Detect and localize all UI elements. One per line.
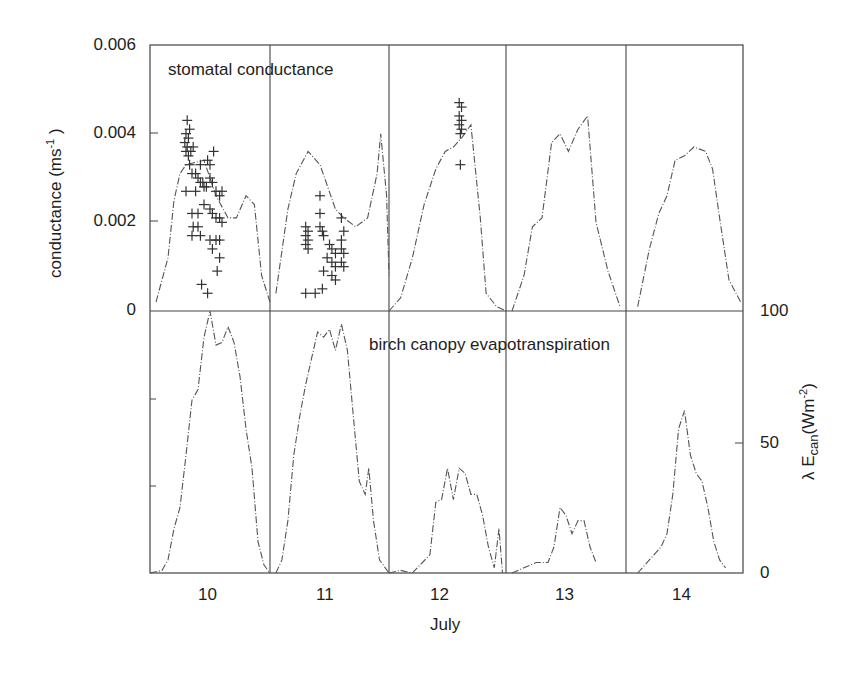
series-line-day-14 (638, 411, 726, 573)
plus-marker (205, 173, 215, 183)
left-y-axis-label: conductance (ms-1 ) (44, 128, 66, 278)
left-tick-0.002: 0.002 (56, 211, 136, 231)
plus-marker (301, 231, 311, 241)
plus-marker (457, 102, 467, 112)
x-tick-day-12: 12 (430, 585, 449, 605)
plus-marker (197, 279, 207, 289)
plus-marker (217, 186, 227, 196)
plus-marker (339, 226, 349, 236)
plus-marker (188, 142, 198, 152)
plus-marker (455, 129, 465, 139)
plus-marker (303, 235, 313, 245)
right-ylabel-unit: (Wm (799, 399, 818, 435)
plus-marker (181, 186, 191, 196)
plus-marker (195, 231, 205, 241)
plus-marker (217, 217, 227, 227)
plus-marker (303, 244, 313, 254)
plot-frame (150, 45, 743, 573)
series-line-day-12 (389, 468, 503, 573)
right-ylabel-main: λ E (799, 455, 818, 480)
right-ylabel-sup: -2 (797, 389, 809, 399)
plus-marker (301, 240, 311, 250)
plus-marker (325, 240, 335, 250)
series-line-day-12 (389, 125, 506, 311)
plus-marker (322, 253, 332, 263)
plus-marker (207, 177, 217, 187)
plus-marker (317, 226, 327, 236)
right-tick-100: 100 (760, 301, 788, 321)
series-line-day-14 (638, 147, 741, 307)
x-tick-day-11: 11 (316, 585, 334, 605)
plus-marker (183, 151, 193, 161)
plus-marker (317, 284, 327, 294)
plus-marker (185, 160, 195, 170)
x-tick-day-10: 10 (198, 585, 217, 605)
plus-marker (199, 200, 209, 210)
plus-marker (203, 288, 213, 298)
plus-marker (193, 173, 203, 183)
right-tick-0: 0 (760, 563, 769, 583)
plus-marker (319, 231, 329, 241)
plus-marker (205, 204, 215, 214)
left-ylabel-sup: -1 (44, 139, 56, 149)
x-axis-label: July (430, 615, 460, 635)
right-ylabel-sub: can (806, 434, 821, 455)
plus-marker (310, 288, 320, 298)
plus-marker (212, 266, 222, 276)
left-tick-0.004: 0.004 (56, 123, 136, 143)
plus-marker (455, 160, 465, 170)
axis-ticks (150, 133, 743, 486)
left-ylabel-main: conductance (ms (46, 149, 65, 278)
plus-marker (215, 253, 225, 263)
plus-marker (203, 155, 213, 165)
plus-marker (182, 115, 192, 125)
plus-marker (303, 226, 313, 236)
left-ylabel-close: ) (46, 128, 65, 138)
right-ylabel-close: ) (799, 383, 818, 389)
plus-marker (454, 111, 464, 121)
series-line-day-11 (276, 134, 389, 294)
series-line-day-13 (512, 508, 596, 574)
plus-marker (315, 222, 325, 232)
plus-marker (339, 248, 349, 258)
conductance-markers (180, 98, 467, 299)
plus-marker (191, 186, 201, 196)
conductance-line (156, 116, 741, 311)
plus-marker (336, 257, 346, 267)
series-line-day-11 (276, 324, 389, 573)
series-line-day-10 (156, 160, 270, 302)
right-tick-50: 50 (760, 433, 779, 453)
x-tick-day-14: 14 (672, 585, 691, 605)
plus-marker (336, 235, 346, 245)
plus-marker (301, 222, 311, 232)
plus-marker (457, 115, 467, 125)
plus-marker (339, 262, 349, 272)
plus-marker (454, 98, 464, 108)
plus-marker (336, 213, 346, 223)
x-tick-day-13: 13 (555, 585, 574, 605)
series-line-day-13 (512, 116, 620, 311)
bottom-panel-title: birch canopy evapotranspiration (369, 335, 610, 355)
plus-marker (315, 191, 325, 201)
plus-marker (319, 266, 329, 276)
top-panel-title: stomatal conductance (168, 60, 333, 80)
series-line-day-10 (150, 311, 270, 573)
plus-marker (193, 208, 203, 218)
day-dividers (270, 45, 626, 573)
right-y-axis-label: λ Ecan(Wm-2) (797, 383, 821, 480)
plus-marker (315, 208, 325, 218)
left-tick-0.006: 0.006 (56, 35, 136, 55)
plus-marker (454, 120, 464, 130)
left-tick-0: 0 (56, 300, 136, 320)
plus-marker (193, 222, 203, 232)
plus-marker (336, 244, 346, 254)
plus-marker (207, 244, 217, 254)
plus-marker (209, 146, 219, 156)
plus-marker (301, 288, 311, 298)
